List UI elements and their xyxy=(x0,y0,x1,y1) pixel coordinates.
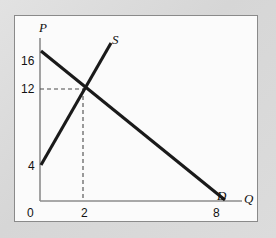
demand-curve-label: D xyxy=(217,189,226,202)
figure-frame: P Q S D 16 12 4 0 2 8 xyxy=(14,15,258,222)
y-tick-16: 16 xyxy=(21,55,34,67)
demand-curve xyxy=(41,51,225,200)
supply-curve-label: S xyxy=(112,33,119,46)
y-tick-4: 4 xyxy=(28,160,35,172)
origin-label: 0 xyxy=(27,207,34,219)
x-tick-8: 8 xyxy=(213,207,220,219)
x-tick-2: 2 xyxy=(81,207,88,219)
screenshot-root: P Q S D 16 12 4 0 2 8 xyxy=(0,0,276,238)
y-tick-12: 12 xyxy=(21,83,34,95)
y-axis-label: P xyxy=(39,21,47,34)
x-axis-label: Q xyxy=(244,192,253,205)
